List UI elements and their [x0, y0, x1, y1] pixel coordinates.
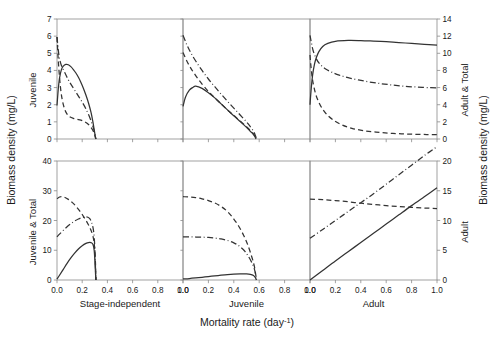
panel-r0-c2: 02468101214 [310, 15, 452, 144]
x-tick-label: 0.8 [406, 286, 418, 295]
curve-solid [57, 242, 96, 280]
panel-r1-c0: 0.00.20.40.60.81.0010203040Stage-indepen… [42, 157, 189, 309]
x-tick-label: 0.4 [102, 286, 114, 295]
column-label: Stage-independent [80, 298, 161, 309]
y-axis-title-right: Biomass density (mg/L) [477, 95, 489, 205]
x-tick-label: 0.0 [177, 286, 189, 295]
y-tick-label: 0 [443, 135, 448, 144]
curve-dashed [57, 37, 96, 139]
y-tick-label: 6 [443, 84, 448, 93]
y-tick-label: 30 [42, 187, 52, 196]
y-tick-label: 10 [443, 49, 453, 58]
y-tick-label: 2 [443, 118, 448, 127]
x-tick-label: 0.6 [381, 286, 393, 295]
y-tick-label: 10 [42, 246, 52, 255]
plot-root: 01234567024681012140.00.20.40.60.81.0010… [42, 15, 452, 309]
y-tick-label: 1 [47, 118, 52, 127]
curve-dash-dot [57, 37, 96, 139]
y-tick-label: 7 [47, 15, 52, 24]
y-tick-label: 0 [443, 276, 448, 285]
y-tick-label: 6 [47, 32, 52, 41]
curve-dash-dot [310, 147, 437, 239]
panel-frame [57, 19, 183, 139]
panel-r1-c2: 0.00.20.40.60.81.005101520Adult [304, 147, 452, 309]
panel-r1-c1: 0.00.20.40.60.81.0Juvenile [177, 161, 316, 309]
x-tick-label: 0.0 [51, 286, 63, 295]
panel-r0-c1 [180, 19, 310, 142]
y-axis-label-row1-left: Juvenile & Total [27, 199, 38, 265]
x-tick-label: 0.4 [228, 286, 240, 295]
panel-frame [310, 19, 437, 139]
curve-solid [310, 40, 437, 104]
y-axis-label-row1-right: Adult [459, 221, 470, 243]
x-tick-label: 0.8 [152, 286, 164, 295]
y-axis-label-row0-left: Juvenile [27, 73, 38, 108]
y-tick-label: 3 [47, 84, 52, 93]
panel-r0-c0: 01234567 [47, 15, 183, 144]
column-label: Adult [363, 298, 385, 309]
curve-solid [57, 64, 96, 139]
figure-biomass-density-vs-mortality-rate: Biomass density (mg/L) Biomass density (… [0, 0, 500, 337]
y-tick-label: 5 [443, 246, 448, 255]
y-tick-label: 4 [443, 101, 448, 110]
y-tick-label: 20 [42, 217, 52, 226]
curve-solid [183, 86, 256, 139]
curve-dashed [310, 55, 437, 135]
x-tick-label: 0.2 [203, 286, 215, 295]
y-axis-label-row0-right: Adult & Total [459, 63, 470, 116]
x-tick-label: 1.0 [431, 286, 443, 295]
x-tick-label: 0.0 [304, 286, 316, 295]
y-tick-label: 20 [443, 157, 453, 166]
x-axis-title: Mortality rate (day-1) [200, 316, 294, 328]
x-tick-label: 0.6 [127, 286, 139, 295]
y-tick-label: 10 [443, 217, 453, 226]
y-tick-label: 4 [47, 66, 52, 75]
curve-dashed [57, 197, 96, 280]
panel-frame [183, 161, 310, 280]
y-tick-label: 0 [47, 135, 52, 144]
y-tick-label: 15 [443, 187, 453, 196]
x-tick-label: 0.8 [279, 286, 291, 295]
panel-frame [183, 19, 310, 139]
curve-solid [310, 188, 437, 280]
column-label: Juvenile [229, 298, 264, 309]
x-axis-title-text: Mortality rate (day [200, 316, 285, 328]
y-tick-label: 0 [47, 276, 52, 285]
y-tick-label: 8 [443, 66, 448, 75]
panel-frame [310, 161, 437, 280]
x-tick-label: 0.4 [355, 286, 367, 295]
curve-solid [183, 274, 256, 280]
y-tick-label: 5 [47, 49, 52, 58]
y-tick-label: 2 [47, 101, 52, 110]
y-tick-label: 14 [443, 15, 453, 24]
x-tick-label: 0.2 [77, 286, 89, 295]
x-tick-label: 0.2 [330, 286, 342, 295]
y-axis-title-left: Biomass density (mg/L) [5, 95, 17, 205]
x-tick-label: 0.6 [254, 286, 266, 295]
y-tick-label: 40 [42, 157, 52, 166]
y-tick-label: 12 [443, 32, 453, 41]
